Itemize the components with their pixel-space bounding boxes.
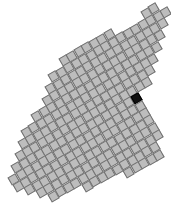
game-board[interactable] bbox=[0, 0, 171, 209]
